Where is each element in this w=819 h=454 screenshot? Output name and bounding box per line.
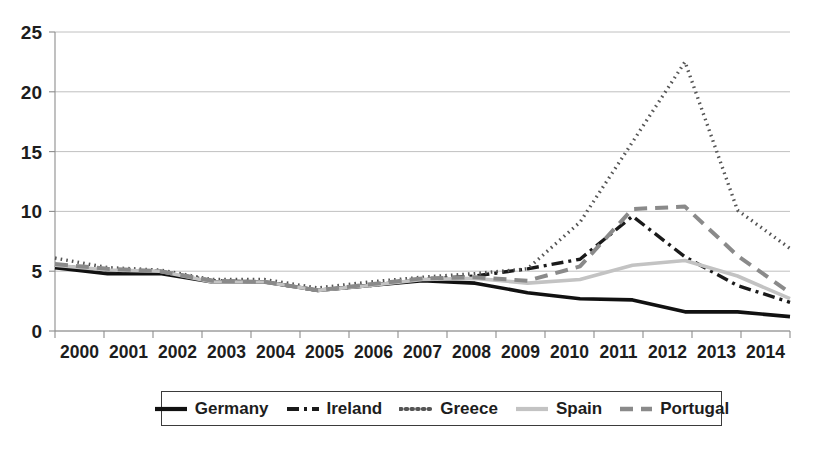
y-tick-label: 10	[21, 201, 42, 222]
y-tick-label: 5	[31, 261, 42, 282]
x-tick-label: 2003	[207, 342, 246, 362]
y-tick-label: 25	[21, 22, 43, 43]
y-tick-label: 15	[21, 142, 43, 163]
x-tick-label: 2007	[403, 342, 442, 362]
legend-label: Ireland	[327, 400, 383, 417]
chart-legend: GermanyIrelandGreeceSpainPortugal	[161, 391, 722, 426]
y-tick-label: 20	[21, 82, 42, 103]
solid-black-line-swatch	[154, 402, 188, 416]
legend-label: Germany	[195, 400, 269, 417]
legend-item-spain[interactable]: Spain	[515, 400, 602, 417]
solid-lightgray-line-swatch	[515, 402, 549, 416]
data-series-group	[55, 62, 790, 317]
x-tick-label: 2000	[60, 342, 99, 362]
legend-item-portugal[interactable]: Portugal	[619, 400, 729, 417]
gridlines	[55, 32, 790, 331]
x-tick-label: 2005	[305, 342, 344, 362]
x-tick-labels: 2000200120022003200420052006200720082009…	[60, 342, 785, 362]
x-tick-label: 2006	[354, 342, 393, 362]
x-tick-label: 2010	[550, 342, 589, 362]
x-tick-label: 2001	[109, 342, 148, 362]
series-line-portugal	[55, 207, 790, 293]
x-tick-label: 2014	[746, 342, 785, 362]
dotted-gray-line-swatch	[399, 402, 433, 416]
legend-item-ireland[interactable]: Ireland	[286, 400, 383, 417]
legend-item-germany[interactable]: Germany	[154, 400, 269, 417]
x-tick-label: 2002	[158, 342, 197, 362]
line-chart: 0510152025 20002001200220032004200520062…	[0, 0, 819, 454]
legend-label: Portugal	[660, 400, 729, 417]
legend-item-greece[interactable]: Greece	[399, 400, 498, 417]
x-tick-label: 2009	[501, 342, 540, 362]
dashed-gray-line-swatch	[619, 402, 653, 416]
x-tick-label: 2012	[648, 342, 687, 362]
y-tick-label: 0	[31, 321, 42, 342]
x-tick-label: 2011	[600, 342, 638, 362]
x-tick-label: 2008	[452, 342, 491, 362]
x-axis	[55, 331, 790, 338]
x-tick-label: 2004	[256, 342, 295, 362]
chart-plot-area: 0510152025 20002001200220032004200520062…	[0, 0, 819, 454]
y-axis	[49, 32, 55, 331]
x-tick-label: 2013	[697, 342, 736, 362]
legend-label: Spain	[556, 400, 602, 417]
legend-label: Greece	[440, 400, 498, 417]
dash-dot-black-line-swatch	[286, 402, 320, 416]
series-line-germany	[55, 268, 790, 317]
y-tick-labels: 0510152025	[21, 22, 43, 342]
